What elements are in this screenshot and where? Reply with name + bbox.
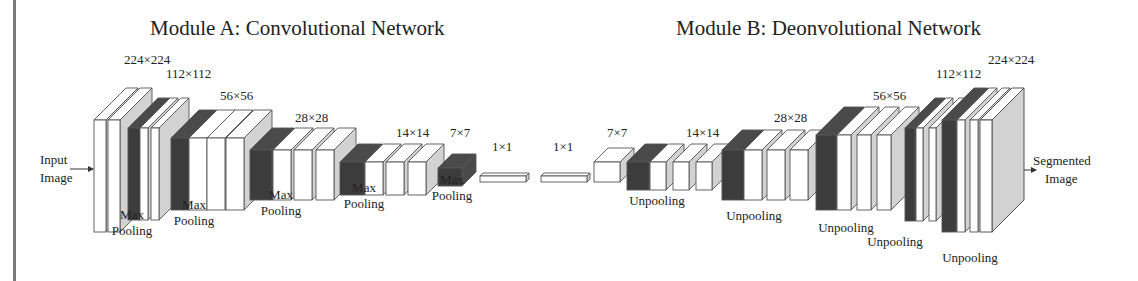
- conv-layer-block: [541, 173, 590, 182]
- size-label: 224×224: [124, 52, 171, 67]
- size-label: 112×112: [166, 66, 211, 81]
- unpooling-label: Unpooling: [818, 220, 874, 235]
- size-label: 7×7: [450, 125, 471, 140]
- size-label: 56×56: [873, 88, 907, 103]
- size-label: 28×28: [774, 110, 807, 125]
- unpooling-label: Unpooling: [726, 208, 782, 223]
- input-label-line2: Image: [40, 170, 73, 185]
- size-label: 28×28: [295, 110, 328, 125]
- output-group: Segmented Image: [1024, 153, 1091, 186]
- network-diagram: Input Image Segmented Image 224×224112×1…: [0, 0, 1138, 281]
- size-label: 1×1: [553, 139, 573, 154]
- unpooling-label: Unpooling: [942, 250, 998, 265]
- conv-layer-block: [480, 173, 529, 182]
- unpooling-label: Unpooling: [629, 193, 685, 208]
- output-label-line2: Image: [1045, 171, 1078, 186]
- input-group: Input Image: [40, 152, 93, 185]
- size-label: 224×224: [988, 52, 1035, 67]
- size-label: 14×14: [396, 125, 430, 140]
- input-label-line1: Input: [40, 152, 68, 167]
- unpooling-label: Unpooling: [867, 234, 923, 249]
- size-label: 112×112: [936, 66, 981, 81]
- size-label: 1×1: [492, 139, 512, 154]
- layer-blocks: [94, 88, 1010, 232]
- size-label: 14×14: [686, 125, 720, 140]
- size-label: 56×56: [220, 88, 254, 103]
- size-label: 7×7: [607, 125, 628, 140]
- output-label-line1: Segmented: [1033, 153, 1091, 168]
